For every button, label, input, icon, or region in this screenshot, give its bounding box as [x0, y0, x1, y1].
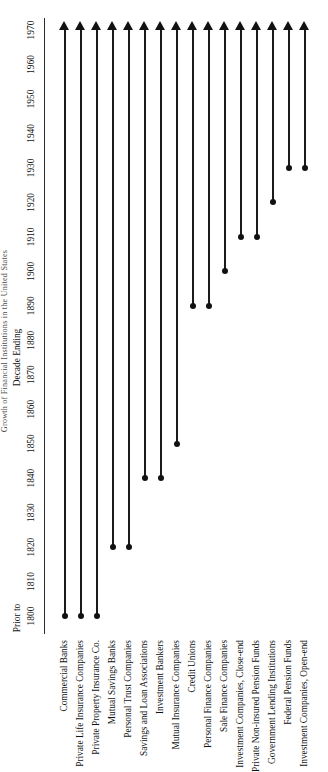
timeline-arrowhead-icon: [299, 21, 309, 30]
timeline-start-dot: [94, 613, 100, 619]
axis-tick-1920: 1920: [26, 193, 36, 212]
axis-tick-1860: 1860: [26, 400, 36, 419]
timeline-arrowhead-icon: [283, 21, 293, 30]
timeline-arrowhead-icon: [251, 21, 261, 30]
timeline-arrowhead-icon: [155, 21, 165, 30]
timeline-row[interactable]: Personal Finance Companies: [202, 0, 216, 682]
axis-tick-1840: 1840: [26, 469, 36, 488]
timeline-arrowhead-icon: [59, 21, 69, 30]
timeline-arrowhead-icon: [203, 21, 213, 30]
timeline-arrowhead-icon: [123, 21, 133, 30]
timeline-bar: [96, 30, 97, 616]
timeline-bar: [128, 30, 129, 547]
row-label: Credit Unions: [187, 640, 198, 692]
row-label: Personal Trust Companies: [123, 640, 134, 738]
row-label: Investment Bankers: [155, 640, 166, 714]
timeline-start-dot: [158, 475, 164, 481]
timeline-bar: [192, 30, 193, 306]
timeline-bar: [240, 30, 241, 237]
timeline-bar: [256, 30, 257, 237]
timeline-arrowhead-icon: [139, 21, 149, 30]
timeline-row[interactable]: Investment Companies, Open-end: [298, 0, 312, 682]
row-label: Investment Companies, Open-end: [299, 640, 310, 767]
axis-caption: Decade Ending: [12, 329, 22, 387]
timeline-bar: [224, 30, 225, 271]
axis-tick-1970: 1970: [26, 21, 36, 40]
prior-to-label: Prior to: [12, 604, 22, 632]
axis-tick-1890: 1890: [26, 296, 36, 315]
timeline-start-dot: [110, 544, 116, 550]
timeline-start-dot: [302, 165, 308, 171]
timeline-row[interactable]: Savings and Loan Associations: [138, 0, 152, 682]
time-axis-line: [44, 18, 45, 634]
timeline-row[interactable]: Sale Finance Companies: [218, 0, 232, 682]
axis-tick-1830: 1830: [26, 503, 36, 522]
axis-tick-1880: 1880: [26, 331, 36, 350]
row-label: Savings and Loan Associations: [139, 640, 150, 756]
axis-tick-1960: 1960: [26, 55, 36, 74]
timeline-bar: [272, 30, 273, 202]
timeline-row[interactable]: Personal Trust Companies: [122, 0, 136, 682]
timeline-row[interactable]: Private Non-insured Pension Funds: [250, 0, 264, 682]
timeline-arrowhead-icon: [219, 21, 229, 30]
timeline-row[interactable]: Mutual Savings Banks: [106, 0, 120, 682]
timeline-row[interactable]: Mutual Insurance Companies: [170, 0, 184, 682]
row-label: Personal Finance Companies: [203, 640, 214, 748]
timeline-start-dot: [190, 303, 196, 309]
timeline-start-dot: [78, 613, 84, 619]
timeline-arrowhead-icon: [75, 21, 85, 30]
row-label: Government Lending Institutions: [267, 640, 278, 764]
timeline-arrowhead-icon: [107, 21, 117, 30]
row-label: Federal Pension Funds: [283, 640, 294, 725]
timeline-row[interactable]: Private Life Insurance Companies: [74, 0, 88, 682]
axis-tick-1850: 1850: [26, 434, 36, 453]
timeline-bar: [288, 30, 289, 168]
timeline-start-dot: [62, 613, 68, 619]
row-label: Private Non-insured Pension Funds: [251, 640, 262, 772]
timeline-bar: [304, 30, 305, 168]
timeline-bar: [160, 30, 161, 478]
timeline-row[interactable]: Commercial Banks: [58, 0, 72, 682]
timeline-bar: [176, 30, 177, 444]
timeline-row[interactable]: Investment Bankers: [154, 0, 168, 682]
row-label: Mutual Insurance Companies: [171, 640, 182, 749]
axis-tick-1950: 1950: [26, 90, 36, 109]
timeline-start-dot: [222, 268, 228, 274]
timeline-bar: [144, 30, 145, 478]
axis-tick-1810: 1810: [26, 572, 36, 591]
timeline-bar: [80, 30, 81, 616]
axis-tick-1820: 1820: [26, 538, 36, 557]
axis-tick-1870: 1870: [26, 365, 36, 384]
timeline-arrowhead-icon: [187, 21, 197, 30]
timeline-row[interactable]: Investment Companies, Close-end: [234, 0, 248, 682]
axis-tick-1910: 1910: [26, 227, 36, 246]
axis-tick-1940: 1940: [26, 124, 36, 143]
row-label: Mutual Savings Banks: [107, 640, 118, 724]
timeline-start-dot: [238, 234, 244, 240]
row-label: Private Property Insurance Co.: [91, 640, 102, 755]
timeline-arrowhead-icon: [267, 21, 277, 30]
timeline-bar: [64, 30, 65, 616]
timeline-start-dot: [254, 234, 260, 240]
row-label: Investment Companies, Close-end: [235, 640, 246, 768]
timeline-arrowhead-icon: [235, 21, 245, 30]
timeline-row[interactable]: Private Property Insurance Co.: [90, 0, 104, 682]
timeline-bar: [208, 30, 209, 306]
timeline-bar: [112, 30, 113, 547]
timeline-arrowhead-icon: [91, 21, 101, 30]
timeline-start-dot: [126, 544, 132, 550]
row-label: Private Life Insurance Companies: [75, 640, 86, 767]
axis-tick-1900: 1900: [26, 262, 36, 281]
axis-tick-1930: 1930: [26, 159, 36, 178]
timeline-start-dot: [142, 475, 148, 481]
timeline-start-dot: [174, 441, 180, 447]
timeline-start-dot: [206, 303, 212, 309]
timeline-arrowhead-icon: [171, 21, 181, 30]
timeline-row[interactable]: Government Lending Institutions: [266, 0, 280, 682]
row-label: Commercial Banks: [59, 640, 70, 712]
timeline-row[interactable]: Federal Pension Funds: [282, 0, 296, 682]
timeline-start-dot: [286, 165, 292, 171]
timeline-start-dot: [270, 199, 276, 205]
timeline-row[interactable]: Credit Unions: [186, 0, 200, 682]
